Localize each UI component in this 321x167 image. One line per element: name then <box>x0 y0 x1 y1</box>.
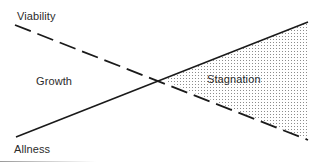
label-stagnation: Stagnation <box>207 73 261 85</box>
diagram-canvas: Viability Allness Growth Stagnation <box>0 0 321 167</box>
label-allness: Allness <box>14 143 50 155</box>
label-viability: Viability <box>17 10 56 22</box>
bottom-rule-divider <box>0 161 96 162</box>
label-growth: Growth <box>36 75 72 87</box>
